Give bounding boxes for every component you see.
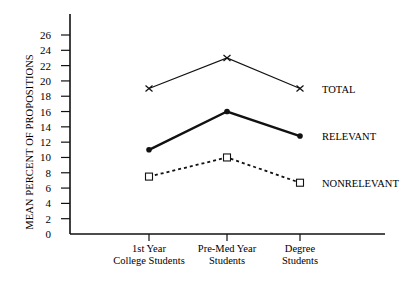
x-tick-label: Students [209,255,245,266]
square-marker-icon [146,173,153,180]
x-axis-ticks: 1st YearCollege StudentsPre-Med YearStud… [113,234,318,266]
series-labels: TOTALRELEVANTNONRELEVANT [322,84,399,189]
square-marker-icon [224,154,231,161]
y-tick-label: 14 [40,121,52,133]
y-tick-label: 20 [40,75,52,87]
y-tick-label: 16 [40,106,52,118]
series-relevant [146,109,303,153]
y-axis-label: MEAN PERCENT OF PROPOSITIONS [24,54,35,230]
x-marker-icon [146,86,153,92]
y-tick-label: 10 [40,151,52,163]
y-tick-label: 22 [40,60,51,72]
x-tick-label: Degree [285,243,316,254]
x-tick-label: Students [282,255,318,266]
dot-marker-icon [146,147,152,153]
series-label-relevant: RELEVANT [322,131,377,142]
y-tick-label: 6 [46,182,52,194]
axes [70,14,385,234]
y-tick-label: 26 [40,29,52,41]
line-chart: 02468101214161820222426 1st YearCollege … [0,0,416,287]
x-tick-label: College Students [113,255,184,266]
series-label-nonrelevant: NONRELEVANT [322,178,399,189]
y-tick-label: 4 [46,197,52,209]
square-marker-icon [297,179,304,186]
series-nonrelevant [146,154,304,186]
y-tick-label: 2 [46,213,52,225]
x-tick-label: 1st Year [132,243,166,254]
series-label-total: TOTAL [322,84,355,95]
y-tick-label: 12 [40,136,51,148]
series-line [149,112,300,150]
y-tick-label: 8 [46,167,52,179]
y-tick-label: 18 [40,90,52,102]
y-tick-label: 0 [46,228,52,240]
x-marker-icon [224,55,231,61]
y-axis-ticks: 02468101214161820222426 [40,29,70,240]
x-marker-icon [297,86,304,92]
series-line [149,58,300,89]
series-group [146,55,304,186]
dot-marker-icon [224,109,230,115]
x-tick-label: Pre-Med Year [198,243,257,254]
y-tick-label: 24 [40,44,52,56]
dot-marker-icon [297,133,303,139]
series-total [146,55,304,92]
